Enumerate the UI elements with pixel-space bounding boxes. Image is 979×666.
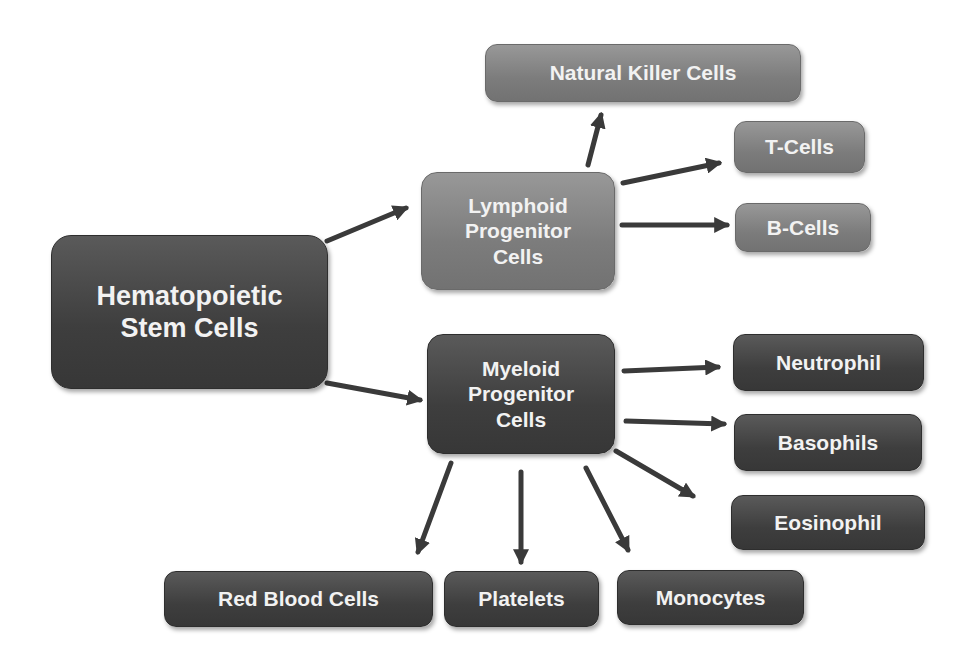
arrow-lymphoid-to-nk	[588, 115, 601, 165]
arrow-lymphoid-to-tcells	[623, 163, 719, 183]
node-label: Neutrophil	[776, 350, 881, 375]
node-label: Red Blood Cells	[218, 586, 379, 611]
node-label: Lymphoid Progenitor Cells	[465, 193, 571, 269]
node-lymphoid-progenitor-cells: Lymphoid Progenitor Cells	[421, 172, 615, 290]
node-platelets: Platelets	[444, 571, 599, 627]
node-monocytes: Monocytes	[617, 570, 804, 625]
arrow-myeloid-to-rbc	[418, 463, 451, 552]
node-label: Myeloid Progenitor Cells	[468, 356, 574, 432]
arrow-myeloid-to-neutrophil	[624, 367, 718, 371]
node-label: Eosinophil	[774, 510, 881, 535]
arrow-myeloid-to-monocytes	[586, 468, 628, 550]
node-label: Monocytes	[656, 585, 766, 610]
arrow-myeloid-to-basophils	[626, 421, 724, 424]
node-label: Basophils	[778, 430, 878, 455]
node-red-blood-cells: Red Blood Cells	[164, 571, 433, 627]
node-eosinophil: Eosinophil	[731, 495, 925, 550]
node-label: B-Cells	[767, 215, 839, 240]
node-hematopoietic-stem-cells: Hematopoietic Stem Cells	[51, 235, 328, 389]
node-t-cells: T-Cells	[734, 121, 865, 173]
node-natural-killer-cells: Natural Killer Cells	[485, 44, 801, 102]
node-b-cells: B-Cells	[735, 203, 871, 252]
node-label: T-Cells	[765, 134, 834, 159]
arrow-hsc-to-lymphoid	[327, 208, 406, 241]
arrow-hsc-to-myeloid	[327, 383, 420, 400]
node-neutrophil: Neutrophil	[733, 334, 924, 391]
node-basophils: Basophils	[734, 414, 922, 471]
node-label: Platelets	[478, 586, 564, 611]
node-label: Natural Killer Cells	[550, 60, 737, 85]
arrow-myeloid-to-eosinophil	[616, 451, 693, 496]
node-label: Hematopoietic Stem Cells	[96, 280, 282, 345]
node-myeloid-progenitor-cells: Myeloid Progenitor Cells	[427, 334, 615, 454]
